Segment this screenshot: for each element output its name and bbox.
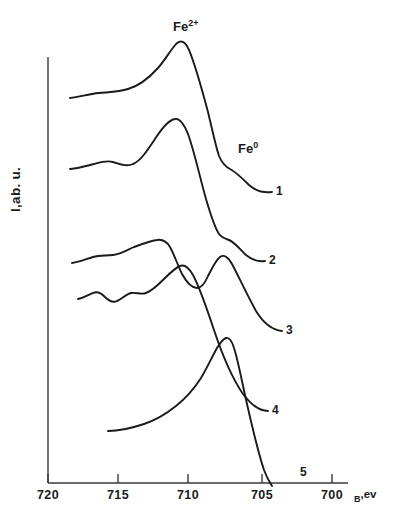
x-axis-title-unit: ,ev: [361, 488, 378, 500]
spectrum-curve-3: [72, 240, 282, 331]
spectrum-curve-5: [108, 338, 272, 486]
x-tick-label-710: 710: [177, 488, 199, 502]
fe2plus-base: Fe: [173, 19, 188, 34]
fe2plus-annotation: Fe2+: [173, 18, 198, 34]
plot-canvas: 720 715 710 705 700 B,ev Fe2+ Fe0 1 2 3 …: [0, 0, 401, 520]
curve-label-3: 3: [286, 323, 293, 337]
x-tick-label-705: 705: [251, 488, 273, 502]
curve-label-5: 5: [300, 465, 307, 479]
curve-label-4: 4: [272, 403, 279, 417]
x-axis-title: B,ev: [354, 488, 377, 504]
x-tick-label-720: 720: [37, 488, 59, 502]
x-tick-label-715: 715: [107, 488, 129, 502]
spectrum-curve-4: [78, 265, 268, 411]
spectrum-curve-1: [70, 42, 272, 193]
xps-spectra-figure: I,ab. u. 720 715 710 705 700 B,ev Fe2+ F…: [0, 0, 401, 520]
fe0-annotation: Fe0: [238, 140, 258, 156]
spectrum-curve-2: [70, 119, 265, 261]
x-tick-label-700: 700: [321, 488, 343, 502]
curve-label-1: 1: [276, 184, 283, 198]
fe0-superscript: 0: [253, 140, 258, 150]
fe2plus-superscript: 2+: [188, 18, 198, 28]
curve-label-2: 2: [269, 253, 276, 267]
fe0-base: Fe: [238, 141, 253, 156]
